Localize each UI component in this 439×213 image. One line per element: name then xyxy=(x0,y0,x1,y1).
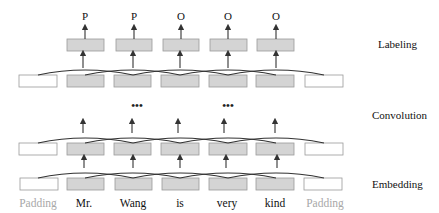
middle-conv-row xyxy=(19,143,343,155)
word-4: very xyxy=(217,197,237,209)
padding-box-right xyxy=(305,143,343,155)
conv-box xyxy=(67,143,104,155)
embedding-box xyxy=(115,178,152,190)
output-label-2: P xyxy=(131,10,137,22)
embedding-box xyxy=(162,178,199,190)
labeling-row xyxy=(67,39,294,51)
label-box-4 xyxy=(210,39,247,51)
label-box-3 xyxy=(163,39,199,51)
padding-box-right xyxy=(305,75,343,87)
layer-label-convolution: Convolution xyxy=(372,109,427,121)
word-2: Wang xyxy=(120,197,147,209)
top-conv-row xyxy=(19,75,343,87)
word-3: is xyxy=(176,197,184,209)
output-label-1: P xyxy=(82,10,88,22)
label-box-5 xyxy=(257,39,294,51)
conv-box xyxy=(161,75,199,87)
embedding-curves xyxy=(38,173,324,178)
padding-box-left xyxy=(19,75,57,87)
conv-box xyxy=(67,75,104,87)
word-padding-right: Padding xyxy=(306,197,344,209)
padding-box-left xyxy=(19,143,57,155)
layer-label-labeling: Labeling xyxy=(378,38,417,50)
conv-box xyxy=(114,75,151,87)
output-label-4: O xyxy=(224,10,232,22)
embedding-row xyxy=(20,178,342,190)
ellipsis-2: ••• xyxy=(222,99,234,111)
padding-box-left xyxy=(20,178,58,190)
conv-box xyxy=(256,75,294,87)
embedding-box xyxy=(256,178,294,190)
layer-label-embedding: Embedding xyxy=(372,178,423,190)
word-5: kind xyxy=(265,197,285,209)
padding-box-right xyxy=(304,178,342,190)
ellipsis-1: ••• xyxy=(131,99,143,111)
conv-box xyxy=(114,143,151,155)
middle-conv-curves xyxy=(38,138,324,143)
output-label-3: O xyxy=(177,10,185,22)
conv-box xyxy=(209,143,247,155)
output-arrows xyxy=(85,27,276,39)
label-box-1 xyxy=(67,39,104,51)
output-label-5: O xyxy=(272,10,280,22)
labeling-input-arrows xyxy=(83,53,276,68)
word-1: Mr. xyxy=(76,197,92,209)
middle-arrows-upper xyxy=(83,121,275,133)
conv-box xyxy=(161,143,199,155)
word-padding-left: Padding xyxy=(19,197,57,209)
embedding-box xyxy=(209,178,247,190)
conv-box xyxy=(256,143,294,155)
label-box-2 xyxy=(116,39,152,51)
embedding-arrows xyxy=(84,157,277,168)
top-conv-curves xyxy=(38,70,324,75)
embedding-box xyxy=(67,178,104,190)
conv-box xyxy=(209,75,247,87)
